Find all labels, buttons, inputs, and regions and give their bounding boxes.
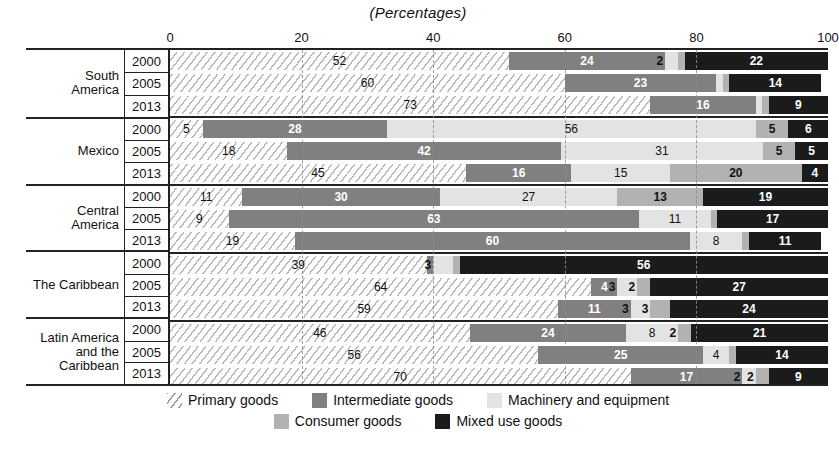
bar-segment-intermediate[interactable]: 23 <box>565 74 716 92</box>
bar-segment-mixed[interactable]: 27 <box>650 278 828 296</box>
bar-segment-mixed[interactable]: 19 <box>703 188 828 206</box>
segment-value: 15 <box>614 166 627 180</box>
bar-segment-primary[interactable]: 73 <box>170 96 650 114</box>
bar-segment-primary[interactable]: 11 <box>170 188 242 206</box>
bar-segment-mixed[interactable]: 21 <box>691 324 828 342</box>
segment-value: 3 <box>642 302 649 316</box>
bar-segment-primary[interactable]: 39 <box>170 256 427 274</box>
bar-segment-primary[interactable]: 45 <box>170 164 466 182</box>
bar-segment-machinery[interactable]: 3 <box>433 256 453 274</box>
bar-segment-machinery[interactable]: 8 <box>690 232 743 250</box>
bar-segment-intermediate[interactable]: 42 <box>287 142 561 160</box>
bar-segment-machinery[interactable]: 1 <box>756 96 763 114</box>
bar-segment-mixed[interactable]: 14 <box>736 346 828 364</box>
stacked-bar[interactable]: 6443227 <box>170 278 828 296</box>
segment-value: 30 <box>334 190 347 204</box>
bar-segment-mixed[interactable]: 5 <box>795 142 828 160</box>
bar-segment-mixed[interactable]: 9 <box>769 96 828 114</box>
bar-segment-mixed[interactable]: 56 <box>460 256 828 274</box>
bar-segment-consumer[interactable]: 13 <box>617 188 703 206</box>
bar-segment-intermediate[interactable]: 28 <box>203 120 387 138</box>
bar-segment-consumer[interactable]: 1 <box>453 256 460 274</box>
bar-segment-machinery[interactable]: 56 <box>387 120 755 138</box>
bar-segment-consumer[interactable]: 1 <box>742 232 749 250</box>
segment-value: 8 <box>649 326 656 340</box>
stacked-bar[interactable]: 46248221 <box>170 324 828 342</box>
segment-value: 11 <box>779 234 792 248</box>
bar-segment-intermediate[interactable]: 16 <box>650 96 755 114</box>
stacked-bar[interactable]: 7316119 <box>170 96 828 114</box>
bar-segment-consumer[interactable]: 2 <box>637 278 650 296</box>
region-label: CentralAmerica <box>26 186 124 251</box>
bar-segment-mixed[interactable]: 22 <box>685 52 828 70</box>
bar-segment-intermediate[interactable]: 16 <box>466 164 571 182</box>
bar-segment-primary[interactable]: 19 <box>170 232 295 250</box>
bar-segment-intermediate[interactable]: 25 <box>538 346 703 364</box>
bar-segment-machinery[interactable]: 11 <box>639 210 711 228</box>
bar-segment-machinery[interactable]: 27 <box>440 188 618 206</box>
bar-segment-consumer[interactable]: 1 <box>723 74 730 92</box>
bar-segment-mixed[interactable]: 24 <box>670 300 828 318</box>
bar-segment-mixed[interactable]: 6 <box>788 120 827 138</box>
bar-segment-primary[interactable]: 9 <box>170 210 229 228</box>
bar-segment-machinery[interactable]: 1 <box>716 74 723 92</box>
year-label: 2013 <box>125 229 168 251</box>
bar-segment-primary[interactable]: 60 <box>170 74 565 92</box>
segment-value: 27 <box>732 280 745 294</box>
bar-segment-mixed[interactable]: 17 <box>717 210 828 228</box>
bar-segment-intermediate[interactable]: 24 <box>470 324 626 342</box>
bar-segment-consumer[interactable]: 5 <box>756 120 789 138</box>
segment-value: 45 <box>311 166 324 180</box>
bar-segment-mixed[interactable]: 11 <box>749 232 821 250</box>
bar-segment-mixed[interactable]: 4 <box>802 164 828 182</box>
bar-segment-primary[interactable]: 64 <box>170 278 591 296</box>
legend-item-intermediate[interactable]: Intermediate goods <box>312 392 453 408</box>
stacked-bar[interactable]: 18423155 <box>170 142 828 160</box>
bar-segment-primary[interactable]: 5 <box>170 120 203 138</box>
legend-item-primary[interactable]: Primary goods <box>167 392 278 408</box>
region-group: 11302713199631111719608111 <box>170 184 828 252</box>
bar-segment-consumer[interactable]: 2 <box>678 324 691 342</box>
segment-value: 5 <box>808 144 815 158</box>
legend-label: Intermediate goods <box>333 392 453 408</box>
stacked-bar[interactable]: 60231114 <box>170 74 828 92</box>
bar-segment-machinery[interactable]: 31 <box>561 142 763 160</box>
bar-segment-intermediate[interactable]: 60 <box>295 232 690 250</box>
stacked-bar[interactable]: 96311117 <box>170 210 828 228</box>
stacked-bar[interactable]: 451615204 <box>170 164 828 182</box>
legend-item-machinery[interactable]: Machinery and equipment <box>487 392 669 408</box>
bar-segment-primary[interactable]: 59 <box>170 300 558 318</box>
segment-value: 4 <box>601 280 608 294</box>
stacked-bar[interactable]: 5285656 <box>170 120 828 138</box>
bar-segment-primary[interactable]: 46 <box>170 324 470 342</box>
segment-value: 39 <box>292 258 305 272</box>
bar-segment-machinery[interactable]: 15 <box>571 164 670 182</box>
bar-segment-primary[interactable]: 56 <box>170 346 538 364</box>
stacked-bar[interactable]: 59113324 <box>170 300 828 318</box>
bar-segment-intermediate[interactable]: 11 <box>558 300 630 318</box>
bar-segment-machinery[interactable]: 2 <box>665 52 678 70</box>
bar-segment-primary[interactable]: 18 <box>170 142 287 160</box>
bar-segment-consumer[interactable]: 1 <box>762 96 769 114</box>
bar-segment-machinery[interactable]: 4 <box>703 346 729 364</box>
bar-segment-intermediate[interactable]: 30 <box>242 188 439 206</box>
legend-item-consumer[interactable]: Consumer goods <box>274 413 402 429</box>
bar-segment-intermediate[interactable]: 24 <box>509 52 665 70</box>
bar-segment-primary[interactable]: 52 <box>170 52 509 70</box>
bar-segment-consumer[interactable]: 5 <box>763 142 796 160</box>
bar-segment-consumer[interactable]: 20 <box>670 164 802 182</box>
bar-segment-intermediate[interactable]: 63 <box>229 210 639 228</box>
stacked-bar[interactable]: 1130271319 <box>170 188 828 206</box>
bar-segment-consumer[interactable]: 1 <box>729 346 736 364</box>
legend-label: Consumer goods <box>295 413 402 429</box>
region-group-label: CentralAmerica200020052013 <box>26 184 168 251</box>
x-axis-tick-100: 100 <box>817 30 839 45</box>
bar-segment-mixed[interactable]: 14 <box>729 74 821 92</box>
stacked-bar[interactable]: 52242122 <box>170 52 828 70</box>
stacked-bar[interactable]: 19608111 <box>170 232 828 250</box>
legend-item-mixed[interactable]: Mixed use goods <box>435 413 562 429</box>
stacked-bar[interactable]: 56254114 <box>170 346 828 364</box>
bar-segment-consumer[interactable]: 3 <box>650 300 670 318</box>
stacked-bar[interactable]: 3913156 <box>170 256 828 274</box>
segment-value: 3 <box>609 280 616 294</box>
